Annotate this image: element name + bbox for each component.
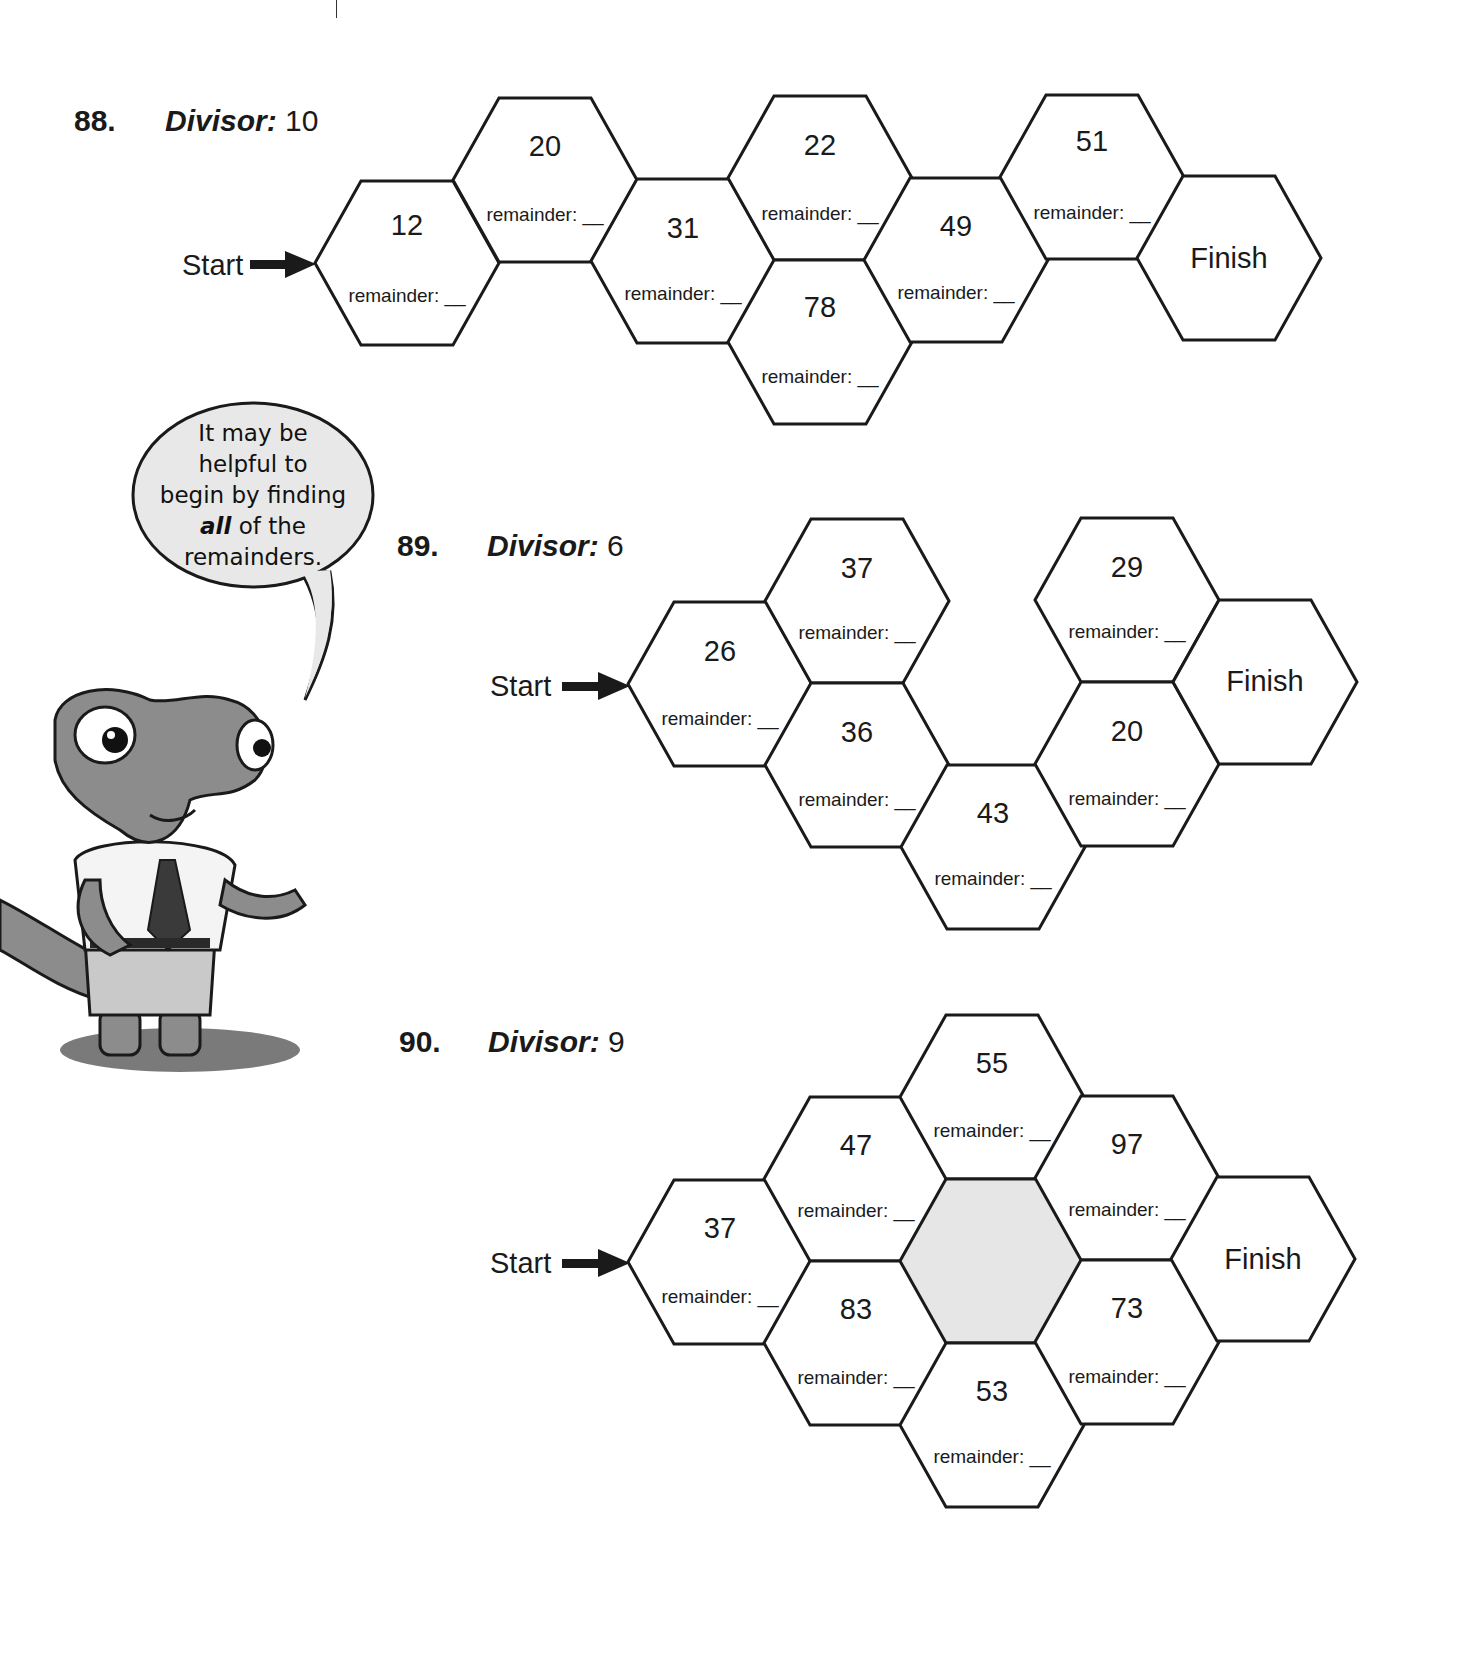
lizard-mascot-illustration	[0, 690, 305, 1072]
hex-remainder[interactable]: remainder: __	[640, 708, 800, 730]
hex-remainder[interactable]: remainder: __	[640, 1286, 800, 1308]
hex-remainder[interactable]: remainder: __	[912, 1446, 1072, 1468]
speech-bubble-text: It may be helpful to begin by finding al…	[140, 418, 366, 573]
start-arrow-icon	[562, 672, 630, 700]
bubble-line: remainders.	[140, 542, 366, 573]
hex-value: 20	[1052, 715, 1202, 748]
start-label: Start	[490, 1247, 551, 1280]
start-arrow-icon	[562, 1249, 630, 1277]
hex-value: 26	[645, 635, 795, 668]
hex-remainder[interactable]: remainder: __	[740, 203, 900, 225]
start-label: Start	[182, 249, 243, 282]
bubble-line: all of the	[140, 511, 366, 542]
hex-value: 37	[645, 1212, 795, 1245]
start-arrow-icon	[250, 251, 316, 278]
hex-value: 73	[1052, 1292, 1202, 1325]
problem-89-divisor: Divisor: 6	[487, 529, 624, 563]
problem-89-number: 89.	[397, 529, 439, 563]
hex-remainder[interactable]: remainder: __	[876, 282, 1036, 304]
hex-remainder[interactable]: remainder: __	[603, 283, 763, 305]
bubble-line-rest: of the	[231, 513, 306, 539]
hex-remainder[interactable]: remainder: __	[1047, 788, 1207, 810]
start-label: Start	[490, 670, 551, 703]
hex-remainder[interactable]: remainder: __	[1012, 202, 1172, 224]
finish-label: Finish	[1188, 1243, 1338, 1276]
hex-value: 29	[1052, 551, 1202, 584]
hex-value: 37	[782, 552, 932, 585]
hex-remainder[interactable]: remainder: __	[777, 789, 937, 811]
hex-value: 31	[608, 212, 758, 245]
hex-remainder[interactable]: remainder: __	[465, 204, 625, 226]
hex-value: 97	[1052, 1128, 1202, 1161]
hex-value: 78	[745, 291, 895, 324]
bubble-line: helpful to	[140, 449, 366, 480]
divisor-label: Divisor:	[487, 529, 599, 562]
bubble-line: It may be	[140, 418, 366, 449]
divisor-value: 9	[608, 1025, 625, 1058]
hex-value: 12	[332, 209, 482, 242]
hex-remainder[interactable]: remainder: __	[327, 285, 487, 307]
hex-remainder[interactable]: remainder: __	[776, 1200, 936, 1222]
hex-remainder[interactable]: remainder: __	[1047, 1366, 1207, 1388]
hex-value: 51	[1017, 125, 1167, 158]
hex-remainder[interactable]: remainder: __	[776, 1367, 936, 1389]
hex-value: 83	[781, 1293, 931, 1326]
hex-value: 49	[881, 210, 1031, 243]
problem-90-divisor: Divisor: 9	[488, 1025, 625, 1059]
hex-value: 22	[745, 129, 895, 162]
hex-remainder[interactable]: remainder: __	[1047, 621, 1207, 643]
divisor-label: Divisor:	[488, 1025, 600, 1058]
finish-label: Finish	[1190, 665, 1340, 698]
bubble-line: begin by finding	[140, 480, 366, 511]
hex-value: 43	[918, 797, 1068, 830]
hex-value: 55	[917, 1047, 1067, 1080]
finish-label: Finish	[1154, 242, 1304, 275]
bubble-emphasis: all	[200, 513, 231, 539]
hex-value: 36	[782, 716, 932, 749]
hex-remainder[interactable]: remainder: __	[913, 868, 1073, 890]
hex-value: 47	[781, 1129, 931, 1162]
hex-value: 53	[917, 1375, 1067, 1408]
hex-remainder[interactable]: remainder: __	[1047, 1199, 1207, 1221]
hex-remainder[interactable]: remainder: __	[912, 1120, 1072, 1142]
problem-90-number: 90.	[399, 1025, 441, 1059]
hex-remainder[interactable]: remainder: __	[777, 622, 937, 644]
hex-value: 20	[470, 130, 620, 163]
hex-remainder[interactable]: remainder: __	[740, 366, 900, 388]
divisor-value: 6	[607, 529, 624, 562]
